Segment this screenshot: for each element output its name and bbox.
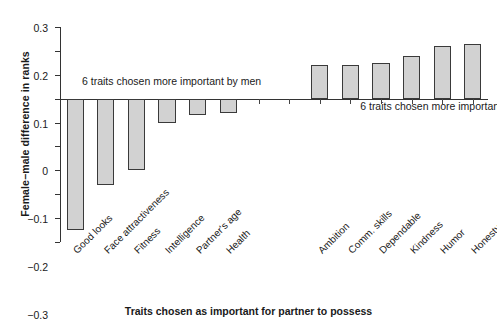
y-axis-tick: −0.3 [55,170,60,171]
x-axis-tick [259,99,260,104]
y-axis-tick-label: 0 [42,165,48,177]
bar [189,99,206,116]
bar [434,46,451,99]
y-axis-title: Female−male difference in ranks [19,34,31,234]
bar [464,44,481,99]
x-axis-tick [289,99,290,104]
y-axis-tick: −0.2 [55,146,60,147]
y-axis-tick: −0.6 [55,242,60,243]
chart-annotation: 6 traits chosen more important by women [360,100,497,112]
y-axis-tick-label: −0.1 [27,213,48,225]
y-axis-tick-label: −0.2 [27,261,48,273]
bar [372,63,389,99]
x-axis-title: Traits chosen as important for partner t… [0,305,497,317]
y-axis-tick-label: 0.2 [33,70,48,82]
bar [342,65,359,98]
x-axis-tick [320,99,321,104]
y-axis-tick: −0.5 [55,218,60,219]
bar-chart: Female−male difference in ranks Traits c… [0,0,497,331]
y-axis-tick: 0.3 [55,27,60,28]
chart-annotation: 6 traits chosen more important by men [82,75,261,87]
bar [158,99,175,123]
bar [403,56,420,99]
y-axis-tick-label: 0.1 [33,118,48,130]
y-axis-line [60,27,61,242]
plot-area: 0.30.20.10−0.1−0.2−0.3−0.4−0.5−0.6 [60,27,488,242]
y-axis-tick-label: 0.3 [33,22,48,34]
bar [311,65,328,98]
y-axis-tick: 0.1 [55,75,60,76]
y-axis-tick: −0.4 [55,194,60,195]
y-axis-tick: −0.1 [55,123,60,124]
bar [220,99,237,113]
bar [128,99,145,171]
y-axis-tick-label: −0.3 [27,309,48,321]
x-axis-tick [350,99,351,104]
bar [67,99,84,230]
y-axis-tick: 0.2 [55,51,60,52]
bar [97,99,114,185]
